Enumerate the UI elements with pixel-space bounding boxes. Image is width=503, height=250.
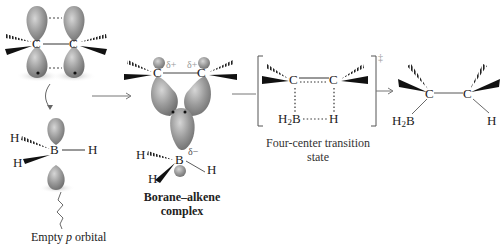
carbon-label: C: [153, 66, 162, 80]
p-orbital-lobe-icon: [47, 165, 64, 190]
hydrogen-label: H: [136, 148, 145, 162]
hydrogen-label: H: [88, 143, 97, 157]
carbon-label: C: [69, 37, 78, 51]
right-bracket: [371, 56, 376, 126]
solid-wedge-bond-icon: [341, 76, 368, 84]
hashed-wedge-bond-icon: [127, 60, 152, 72]
hashed-wedge-bond-icon: [21, 136, 50, 149]
delta-plus-label: δ+: [187, 58, 197, 72]
hydrogen-label: H: [329, 112, 338, 126]
transition-state-caption: Four-center transition state: [258, 136, 378, 164]
double-dagger-symbol: ‡: [378, 51, 383, 65]
complex-caption: Borane–alkene complex: [140, 190, 224, 218]
b-text: B: [406, 113, 415, 128]
delta-minus-label: δ−: [188, 145, 198, 159]
carbon-label: C: [329, 73, 338, 87]
caption-line: Four-center transition: [258, 136, 378, 150]
bh2-label: H2B: [392, 114, 415, 131]
carbon-label: C: [425, 87, 434, 101]
empty-p-orbital-caption: Empty p orbital: [31, 230, 106, 244]
p-orbital-lobe-icon: [184, 76, 211, 116]
boron-label: B: [50, 143, 59, 157]
p-orbital-lobe-icon: [47, 118, 64, 145]
caption-line: Borane–alkene: [140, 190, 224, 204]
hashed-wedge-bond-icon: [341, 64, 364, 79]
solid-wedge-bond-icon: [155, 163, 175, 183]
bh2-label: H2B: [278, 112, 301, 129]
hashed-wedge-bond-icon: [147, 151, 174, 160]
electron-dot-icon: [184, 111, 187, 114]
left-bracket: [258, 56, 263, 126]
hydrogen-label: H: [10, 131, 19, 145]
hydrogen-label: H: [13, 156, 22, 170]
solid-wedge-bond-icon: [124, 74, 152, 80]
hydrogen-label: H: [207, 163, 216, 177]
alkene-molecule: [5, 6, 107, 82]
arrowhead-icon: [47, 105, 53, 110]
transition-state: [258, 56, 376, 126]
hashed-wedge-bond-icon: [470, 64, 487, 89]
solid-wedge-bond-icon: [262, 76, 289, 84]
carbon-label: C: [197, 66, 206, 80]
b-text: B: [292, 111, 301, 126]
c-h-bond: [473, 99, 489, 113]
solid-wedge-bond-icon: [23, 155, 50, 164]
caption-line: complex: [140, 204, 224, 218]
carbon-label: C: [463, 87, 472, 101]
caption-text: orbital: [72, 230, 106, 244]
solid-wedge-bond-icon: [80, 46, 107, 55]
h-text: H: [392, 113, 401, 128]
p-orbital-lobe-icon: [170, 108, 195, 150]
p-orbital-lobe-icon: [151, 76, 178, 116]
solid-wedge-bond-icon: [398, 79, 427, 92]
b-h-bond: [186, 161, 205, 172]
curved-arrow-icon: [46, 84, 51, 108]
hashed-wedge-bond-icon: [80, 34, 107, 42]
solid-wedge-bond-icon: [5, 46, 32, 55]
h-text: H: [278, 111, 287, 126]
boron-label: B: [175, 153, 184, 167]
hydrogen-label: H: [148, 172, 157, 186]
carbon-label: C: [32, 37, 41, 51]
carbon-label: C: [289, 73, 298, 87]
electron-dot-icon: [172, 111, 175, 114]
electron-dot-icon: [73, 71, 76, 74]
product-molecule: [398, 64, 500, 114]
hydrogen-label: H: [487, 114, 496, 128]
hashed-wedge-bond-icon: [209, 60, 234, 72]
delta-plus-label: δ+: [166, 58, 176, 72]
caption-line: state: [258, 150, 378, 164]
c-b-bond: [412, 99, 427, 114]
caption-text: Empty: [31, 230, 66, 244]
electron-dot-icon: [36, 71, 39, 74]
solid-wedge-bond-icon: [209, 74, 237, 80]
hashed-wedge-bond-icon: [5, 34, 32, 42]
squiggle-pointer-icon: [57, 192, 63, 229]
hashed-wedge-bond-icon: [266, 64, 289, 79]
